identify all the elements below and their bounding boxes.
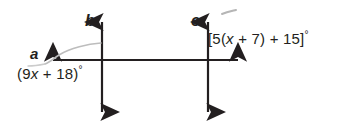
expr-left-degree-symbol: ° xyxy=(78,64,82,75)
expr-left-constant: 18 xyxy=(56,65,73,82)
expr-left-coefficient: 9 xyxy=(22,65,31,82)
expr-right-degree-symbol: ° xyxy=(304,29,308,40)
expr-left-operator: + xyxy=(38,65,56,82)
expr-right-operator-outer: + xyxy=(265,30,283,47)
pencil-tick-near-c xyxy=(222,10,236,14)
angle-expression-right: [5(x + 7) + 15]° xyxy=(208,31,309,46)
angle-label-a: a xyxy=(30,46,38,61)
expr-right-variable: x xyxy=(226,30,234,47)
expr-right-open: [5( xyxy=(208,30,226,47)
angle-expression-left: (9x + 18)° xyxy=(17,66,83,81)
line-label-c: c xyxy=(191,13,200,29)
geometry-figure: b c a (9x + 18)° [5(x + 7) + 15]° xyxy=(0,0,345,134)
expr-right-outer-constant: 15 xyxy=(283,30,300,47)
expr-right-inner-constant: 7 xyxy=(252,30,261,47)
line-label-b: b xyxy=(85,13,95,29)
expr-right-operator-inner: + xyxy=(234,30,252,47)
